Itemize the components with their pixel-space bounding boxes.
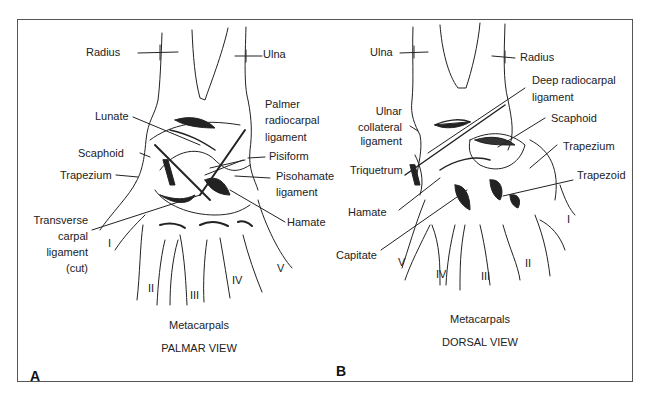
label-transverse-line2: carpal [26,230,88,243]
label-trapezium-a: Trapezium [60,169,112,182]
label-pisohamate-line2: ligament [276,186,318,199]
label-ulna-b: Ulna [370,46,393,59]
label-lunate-a: Lunate [95,110,129,123]
metacarpal-numeral-b-5: V [398,256,405,269]
panel-letter-a: A [30,368,40,384]
label-pisohamate-line1: Pisohamate [276,170,334,183]
palmar-view-drawing [92,27,292,305]
label-scaphoid-b: Scaphoid [551,112,597,125]
label-transverse-line4: (cut) [26,262,88,275]
metacarpal-numeral-b-2: II [525,257,531,270]
label-palmer-radiocarpal-line3: ligament [265,131,307,144]
label-scaphoid-a: Scaphoid [78,147,124,160]
metacarpal-numeral-a-3: III [190,289,199,302]
label-transverse-line3: ligament [26,246,88,259]
label-transverse-line1: Transverse [26,214,88,227]
label-palmer-radiocarpal-line2: radiocarpal [265,114,319,127]
label-palmer-radiocarpal-line1: Palmer [265,98,300,111]
label-ulnar-collateral-line3: ligament [340,135,402,148]
panel-letter-b: B [336,363,346,379]
label-ulnar-collateral-line2: collateral [340,121,402,134]
metacarpal-numeral-a-5: V [277,262,284,275]
metacarpals-caption-b: Metacarpals [410,313,550,325]
view-title-b: DORSAL VIEW [410,336,550,348]
label-ulna-a: Ulna [263,48,286,61]
label-pisiform-a: Pisiform [269,150,309,163]
label-ulnar-collateral-line1: Ulnar [340,105,402,118]
label-trapezoid-b: Trapezoid [577,169,626,182]
label-hamate-a: Hamate [287,216,326,229]
metacarpal-numeral-a-1: I [108,237,111,250]
label-deep-radiocarpal-line1: Deep radiocarpal [532,74,616,87]
label-trapezium-b: Trapezium [563,140,615,153]
metacarpal-numeral-b-3: III [481,270,490,283]
label-radius-b: Radius [520,51,554,64]
view-title-a: PALMAR VIEW [129,342,269,354]
metacarpal-numeral-b-1: I [567,213,570,226]
metacarpal-numeral-a-2: II [148,282,154,295]
label-hamate-b: Hamate [348,206,387,219]
label-deep-radiocarpal-line2: ligament [532,91,574,104]
label-triquetrum-b: Triquetrum [350,164,403,177]
label-radius-a: Radius [86,46,120,59]
metacarpals-caption-a: Metacarpals [129,319,269,331]
label-capitate-b: Capitate [336,249,377,262]
metacarpal-numeral-a-4: IV [232,274,242,287]
metacarpal-numeral-b-4: IV [436,268,446,281]
